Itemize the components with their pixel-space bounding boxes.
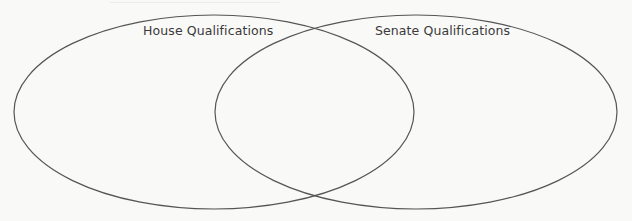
venn-diagram-canvas: House Qualifications Senate Qualificatio… <box>0 0 632 221</box>
region-house-only <box>30 50 200 180</box>
region-senate-only <box>430 50 600 180</box>
house-qualifications-label: House Qualifications <box>143 23 273 38</box>
region-both <box>230 50 400 180</box>
senate-qualifications-label: Senate Qualifications <box>375 23 510 38</box>
